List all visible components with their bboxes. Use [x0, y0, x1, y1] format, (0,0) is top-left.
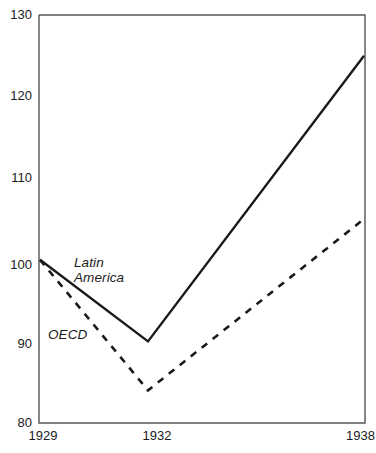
ytick-label-110: 110 [0, 171, 32, 184]
series-line-latin-america [40, 56, 364, 342]
ytick-label-120: 120 [0, 89, 32, 102]
ytick-label-130: 130 [0, 8, 32, 21]
chart-figure: 130 120 110 100 90 80 1929 1932 1938 Lat… [0, 0, 376, 453]
line-chart-canvas [0, 0, 376, 453]
xtick-label-1929: 1929 [15, 429, 71, 442]
axis-frame [39, 15, 365, 423]
series-line-oecd [40, 219, 364, 390]
ytick-label-90: 90 [0, 337, 32, 350]
series-annotation-oecd: OECD [48, 327, 87, 342]
series-annotation-latin-america: Latin America [74, 255, 124, 285]
xtick-label-1932: 1932 [129, 429, 185, 442]
xtick-label-1938: 1938 [333, 429, 375, 442]
ytick-label-80: 80 [0, 416, 32, 429]
ytick-label-100: 100 [0, 258, 32, 271]
